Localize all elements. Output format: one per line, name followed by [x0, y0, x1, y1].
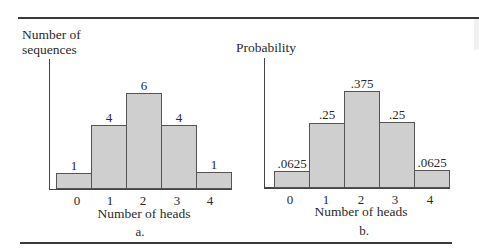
top-rule	[18, 17, 479, 19]
chart-b-xlabel: Number of heads	[301, 205, 421, 219]
chart-a-ylabel: Number of sequences	[22, 27, 81, 57]
chart-b-ylabel-line-1: Probability	[236, 40, 296, 55]
chart-a-value-label-4: 1	[196, 158, 232, 171]
chart-a-bar-1	[91, 125, 127, 189]
chart-b-x-tick-0: 0	[280, 193, 300, 206]
chart-b-bar-0	[274, 171, 310, 188]
chart-a-x-tick-4: 4	[200, 194, 220, 207]
chart-b-value-label-4: .0625	[410, 156, 454, 169]
chart-a-value-label-0: 1	[56, 159, 92, 172]
chart-b-y-axis	[264, 58, 265, 188]
chart-a-bar-4	[196, 172, 232, 189]
chart-a-x-tick-0: 0	[67, 194, 87, 207]
chart-a-ylabel-line-2: sequences	[22, 42, 81, 57]
chart-a-bar-3	[161, 125, 197, 189]
chart-a-xlabel: Number of heads	[84, 207, 204, 221]
chart-b-bar-2	[344, 91, 380, 188]
chart-b-value-label-1: .25	[309, 108, 345, 121]
chart-b-bar-3	[379, 122, 415, 188]
chart-a-panel-label: a.	[128, 225, 152, 238]
chart-b-bar-1	[309, 123, 345, 188]
chart-a-value-label-1: 4	[91, 111, 127, 124]
chart-a-bar-0	[56, 173, 92, 189]
chart-b-value-label-0: .0625	[270, 157, 314, 170]
chart-a-ylabel-line-1: Number of	[22, 27, 81, 42]
chart-b-value-label-2: .375	[344, 77, 380, 90]
chart-a-value-label-2: 6	[126, 79, 162, 92]
chart-b-value-label-3: .25	[379, 108, 415, 121]
chart-b-panel-label: b.	[352, 224, 376, 237]
page-edge-shade	[474, 19, 479, 50]
bottom-rule	[20, 242, 452, 244]
chart-a-value-label-3: 4	[161, 111, 197, 124]
chart-b-bar-4	[414, 170, 450, 188]
chart-b-x-tick-4: 4	[420, 193, 440, 206]
chart-a-y-axis	[49, 59, 50, 190]
chart-b-ylabel: Probability	[236, 40, 296, 55]
chart-a-bar-2	[126, 93, 162, 189]
